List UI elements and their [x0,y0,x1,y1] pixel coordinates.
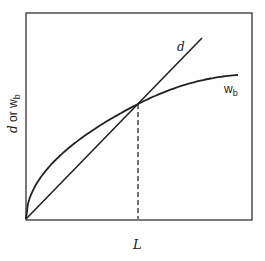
x-axis-label: L [132,237,142,252]
diagram: d wb d or wb L [0,0,265,261]
d-curve-label: d [177,40,185,54]
y-axis-label: d or wb [6,94,22,133]
wb-curve-label: wb [223,82,238,98]
d-line [26,38,202,219]
plot-frame [26,13,252,220]
wb-curve [26,75,238,219]
